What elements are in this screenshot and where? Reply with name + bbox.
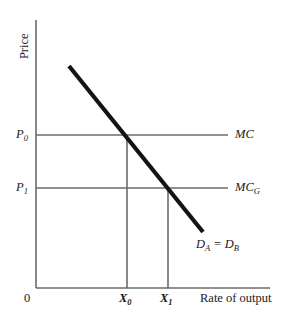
y-axis-title: Price <box>18 16 31 76</box>
price-tick-p0-subscript: 0 <box>24 133 28 143</box>
price-tick-p0: P0 <box>16 128 28 141</box>
demand-label-left-base: D <box>196 237 205 251</box>
marginal-cost-government-label: MCG <box>235 181 260 194</box>
quantity-tick-x1: X1 <box>160 292 173 305</box>
marginal-cost-government-label-subscript: G <box>254 186 260 196</box>
demand-label-left-subscript: A <box>205 243 210 253</box>
marginal-cost-government-label-base: MC <box>235 180 254 194</box>
price-tick-p1-subscript: 1 <box>24 186 28 196</box>
marginal-cost-label: MC <box>235 128 254 141</box>
demand-curve-label: DA=DB <box>196 238 239 251</box>
quantity-tick-x0-subscript: 0 <box>127 297 131 307</box>
quantity-tick-x0: X0 <box>119 292 132 305</box>
demand-label-equals: = <box>210 237 224 251</box>
demand-label-right-base: D <box>225 237 234 251</box>
demand-label-right-subscript: B <box>234 243 239 253</box>
plot-area <box>0 0 293 322</box>
price-tick-p1-base: P <box>16 180 24 194</box>
demand-curve <box>69 66 203 232</box>
price-tick-p0-base: P <box>16 127 24 141</box>
quantity-tick-x1-subscript: 1 <box>168 297 172 307</box>
origin-label: 0 <box>24 292 30 305</box>
price-tick-p1: P1 <box>16 181 28 194</box>
x-axis-title: Rate of output <box>200 292 272 305</box>
economics-demand-marginal-cost-figure: Price Rate of output 0 P0 P1 X0 X1 MC MC… <box>0 0 293 322</box>
marginal-cost-label-base: MC <box>235 127 254 141</box>
